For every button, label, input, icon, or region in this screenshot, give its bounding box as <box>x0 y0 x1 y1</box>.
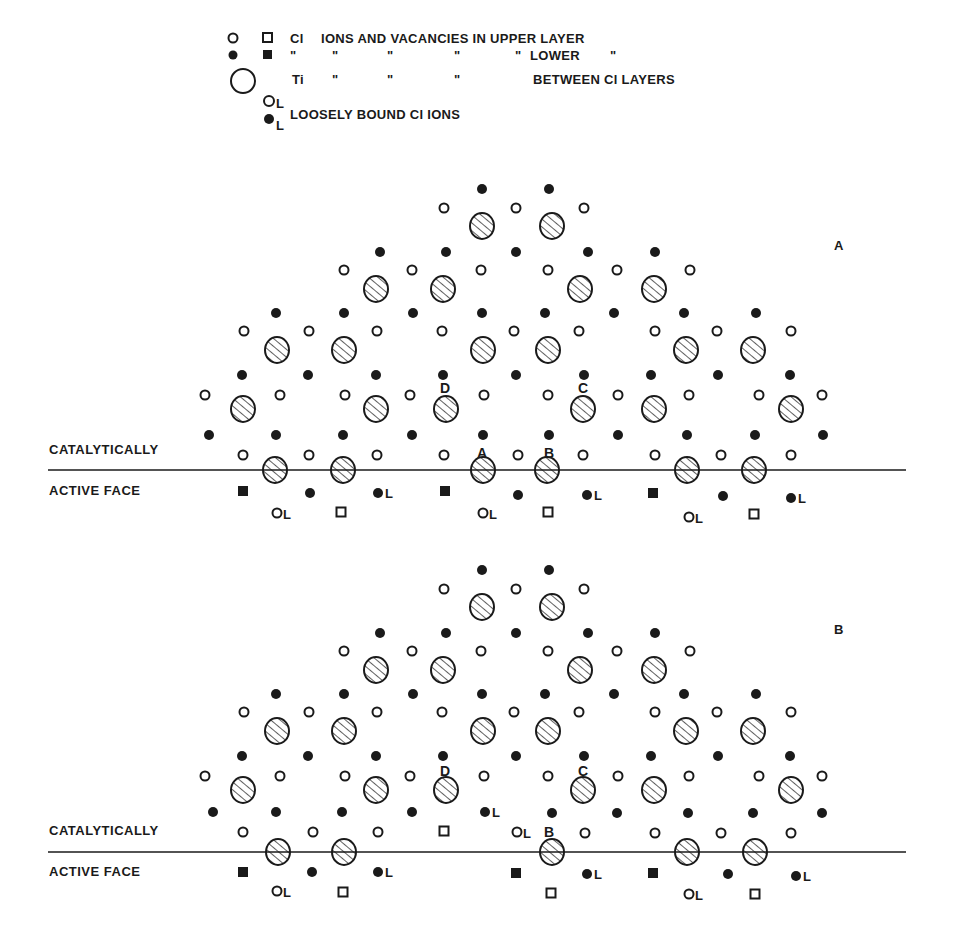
cl-lower-icon <box>271 807 281 817</box>
panel-a-label: A <box>834 238 844 253</box>
ti-ion-icon <box>536 718 560 744</box>
cl-lower-icon <box>407 430 417 440</box>
cl-upper-icon <box>544 772 553 781</box>
site-label-d: D <box>440 380 450 396</box>
active-face-label: ACTIVE FACE <box>49 483 140 498</box>
ti-ion-icon <box>568 276 592 302</box>
cl-upper-icon <box>651 327 660 336</box>
cl-upper-icon <box>373 708 382 717</box>
cl-upper-icon <box>686 647 695 656</box>
panel-a: LLLLLL <box>201 184 829 526</box>
cl-lower-icon <box>750 430 760 440</box>
ti-ion-icon <box>364 777 388 803</box>
cl-lower-icon <box>375 247 385 257</box>
legend-ditto: " <box>454 48 460 63</box>
ti-ion-icon <box>471 337 495 363</box>
cl-lower-icon <box>477 308 487 318</box>
cl-upper-icon <box>276 391 285 400</box>
cl-lower-icon <box>785 751 795 761</box>
site-label-c: C <box>578 763 588 779</box>
ti-ion-icon <box>332 337 356 363</box>
cl-lower-icon <box>271 430 281 440</box>
cl-lower-icon <box>478 430 488 440</box>
cl-upper-icon <box>340 266 349 275</box>
site-label-d: D <box>440 763 450 779</box>
cl-upper-icon <box>373 451 382 460</box>
ti-ion-icon <box>674 718 698 744</box>
ti-ion-icon <box>779 777 803 803</box>
loose-L-label: L <box>695 888 703 903</box>
cl-lower-icon <box>511 628 521 638</box>
cl-lower-icon <box>817 808 827 818</box>
ti-ion-icon <box>431 657 455 683</box>
loose-L-label: L <box>523 826 531 841</box>
cl-lower-icon <box>237 370 247 380</box>
cl-lower-icon <box>438 370 448 380</box>
cl-upper-icon <box>512 204 521 213</box>
cl-lower-icon <box>785 370 795 380</box>
cl-lower-icon <box>271 308 281 318</box>
cl-lower-icon <box>540 308 550 318</box>
legend-loose-open-circle-icon <box>264 96 274 106</box>
legend-row2-text: LOWER <box>530 48 580 63</box>
loose-L-label: L <box>492 805 500 820</box>
cl-upper-icon <box>755 772 764 781</box>
cl-lower-icon <box>337 807 347 817</box>
ti-ion-icon <box>434 396 458 422</box>
ti-ion-icon <box>265 337 289 363</box>
cl-lower-icon <box>540 689 550 699</box>
site-label-a: A <box>477 445 487 461</box>
cl-lower-icon <box>791 871 801 881</box>
ti-ion-icon <box>571 396 595 422</box>
legend-ditto: " <box>290 48 296 63</box>
cl-lower-icon <box>373 867 383 877</box>
legend-ditto: " <box>387 72 393 87</box>
cl-upper-icon <box>201 772 210 781</box>
cl-lower-icon <box>408 308 418 318</box>
ti-ion-icon <box>540 213 564 239</box>
cl-upper-icon <box>440 451 449 460</box>
cl-upper-icon <box>341 772 350 781</box>
cl-upper-icon <box>374 828 383 837</box>
legend-ditto: " <box>387 48 393 63</box>
cl-lower-icon <box>748 808 758 818</box>
cl-lower-icon <box>477 689 487 699</box>
cl-upper-icon <box>651 829 660 838</box>
cl-lower-icon <box>713 751 723 761</box>
cl-upper-icon <box>685 513 694 522</box>
cl-upper-icon <box>240 708 249 717</box>
legend-loose-filled-circle-icon <box>264 114 274 124</box>
cl-upper-icon <box>575 708 584 717</box>
cl-lower-icon <box>271 689 281 699</box>
legend-row1-text: IONS AND VACANCIES IN UPPER LAYER <box>321 31 585 46</box>
cl-lower-icon <box>582 490 592 500</box>
vacancy-upper-icon <box>440 827 449 836</box>
cl-upper-icon <box>309 828 318 837</box>
loose-L-label: L <box>283 885 291 900</box>
cl-upper-icon <box>787 829 796 838</box>
ti-ion-icon <box>265 718 289 744</box>
cl-upper-icon <box>651 708 660 717</box>
cl-lower-icon <box>204 430 214 440</box>
ti-ion-icon <box>431 276 455 302</box>
crystal-lattice-diagram: Cl IONS AND VACANCIES IN UPPER LAYER " "… <box>0 0 954 932</box>
ti-ion-icon <box>231 777 255 803</box>
legend-row3-prefix: Ti <box>292 72 304 87</box>
cl-lower-icon <box>679 308 689 318</box>
cl-lower-icon <box>609 308 619 318</box>
cl-lower-icon <box>751 689 761 699</box>
cl-lower-icon <box>579 370 589 380</box>
cl-lower-icon <box>338 430 348 440</box>
legend: Cl IONS AND VACANCIES IN UPPER LAYER " "… <box>229 31 675 133</box>
site-label-b: B <box>544 445 554 461</box>
cl-lower-icon <box>713 370 723 380</box>
cl-upper-icon <box>438 708 447 717</box>
ti-ion-icon <box>779 396 803 422</box>
cl-upper-icon <box>239 451 248 460</box>
cl-lower-icon <box>583 247 593 257</box>
ti-ion-icon <box>642 657 666 683</box>
legend-ditto: " <box>454 72 460 87</box>
cl-upper-icon <box>240 327 249 336</box>
cl-lower-icon <box>305 488 315 498</box>
ti-ion-icon <box>642 276 666 302</box>
